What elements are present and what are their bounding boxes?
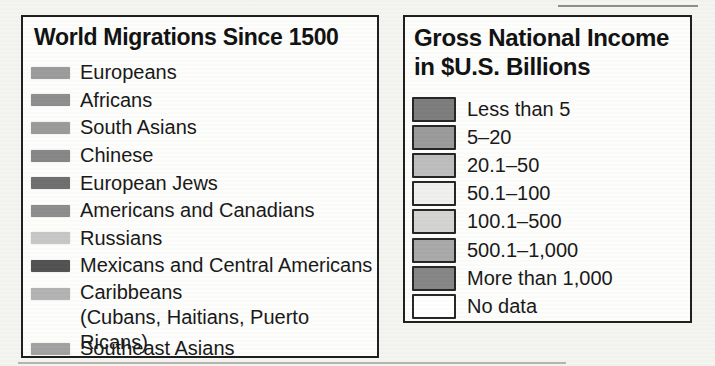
migrations-legend-title: World Migrations Since 1500 (34, 24, 377, 51)
legend-row-label: 50.1–100 (467, 181, 550, 206)
legend-row-100-1-500: 100.1–500 (412, 208, 690, 236)
legend-row-50-1-100: 50.1–100 (412, 180, 690, 208)
migrations-legend-rows: Europeans Africans South Asians Chinese … (23, 59, 377, 362)
legend-row-label: No data (467, 294, 537, 319)
legend-row-label: Mexicans and Central Americans (80, 253, 372, 278)
legend-row-label: Europeans (80, 60, 177, 85)
european-jews-color-swatch (31, 177, 70, 189)
100-1-500-color-swatch (412, 209, 456, 234)
southeast-asians-color-swatch (31, 343, 70, 355)
legend-row-label: 100.1–500 (467, 209, 562, 234)
americans-canadians-color-swatch (31, 205, 70, 217)
legend-row-mexicans-central-americans: Mexicans and Central Americans (31, 252, 377, 280)
legend-row-no-data: No data (412, 292, 690, 320)
gni-legend-rows: Less than 5 5–20 20.1–50 50.1–100 100.1–… (405, 95, 690, 321)
50-1-100-color-swatch (412, 181, 456, 206)
less-than-5-color-swatch (412, 97, 456, 122)
legend-row-more-than-1000: More than 1,000 (412, 264, 690, 292)
gni-legend-title: Gross National Income in $U.S. Billions (414, 23, 690, 81)
legend-row-label: Less than 5 (467, 97, 570, 122)
legend-row-caribbeans: Caribbeans(Cubans, Haitians, Puerto Rica… (31, 280, 377, 335)
legend-row-label: Chinese (80, 143, 153, 168)
legend-row-chinese: Chinese (31, 142, 377, 170)
legend-row-label: Southeast Asians (80, 336, 235, 361)
legend-row-label: Africans (80, 88, 152, 113)
more-than-1000-color-swatch (412, 266, 456, 291)
russians-color-swatch (31, 232, 70, 244)
legend-row-south-asians: South Asians (31, 114, 377, 142)
caribbeans-label: Caribbeans (80, 281, 182, 303)
scan-artifact-top-line (558, 5, 698, 7)
legend-row-label: European Jews (80, 171, 218, 196)
mexicans-central-americans-color-swatch (31, 260, 70, 272)
legend-row-label: 20.1–50 (467, 153, 539, 178)
legend-row-americans-canadians: Americans and Canadians (31, 197, 377, 225)
no-data-color-swatch (412, 294, 456, 319)
legend-row-label: 5–20 (467, 125, 512, 150)
legend-row-label: Russians (80, 226, 162, 251)
legend-row-russians: Russians (31, 225, 377, 253)
legend-row-europeans: Europeans (31, 59, 377, 87)
legend-row-label: More than 1,000 (467, 266, 613, 291)
legend-row-5-20: 5–20 (412, 123, 690, 151)
gni-legend-box: Gross National Income in $U.S. Billions … (403, 15, 692, 323)
chinese-color-swatch (31, 150, 70, 162)
caribbeans-color-swatch (31, 288, 70, 300)
5-20-color-swatch (412, 125, 456, 150)
500-1-1000-color-swatch (412, 238, 456, 263)
20-1-50-color-swatch (412, 153, 456, 178)
legend-row-label: 500.1–1,000 (467, 238, 578, 263)
legend-row-less-than-5: Less than 5 (412, 95, 690, 123)
south-asians-color-swatch (31, 122, 70, 134)
gni-title-line1: Gross National Income (414, 24, 669, 51)
legend-row-label: Americans and Canadians (80, 198, 315, 223)
migrations-legend-box: World Migrations Since 1500 Europeans Af… (21, 15, 379, 358)
africans-color-swatch (31, 94, 70, 106)
europeans-color-swatch (31, 67, 70, 79)
legend-row-africans: Africans (31, 87, 377, 115)
legend-row-500-1-1000: 500.1–1,000 (412, 236, 690, 264)
gni-title-line2: in $U.S. Billions (414, 53, 590, 80)
legend-row-label: South Asians (80, 115, 197, 140)
legend-row-20-1-50: 20.1–50 (412, 151, 690, 179)
legend-row-european-jews: European Jews (31, 169, 377, 197)
